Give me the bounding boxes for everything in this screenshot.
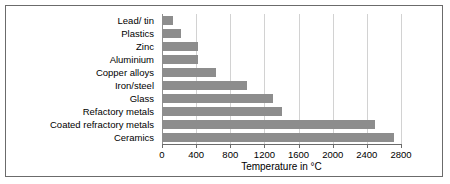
- tick-mark-1600: [299, 144, 300, 148]
- x-axis-tick-labels: 040080012001600200024002800: [162, 149, 401, 161]
- category-label: Glass: [0, 94, 154, 104]
- tick-mark-2000: [333, 144, 334, 148]
- category-label: Aluminium: [0, 55, 154, 65]
- tick-mark-800: [230, 144, 231, 148]
- category-label: Iron/steel: [0, 81, 154, 91]
- tick-mark-2800: [401, 144, 402, 148]
- bar: [162, 107, 282, 116]
- category-label: Ceramics: [0, 133, 154, 143]
- tick-label-400: 400: [188, 149, 204, 160]
- bar: [162, 68, 216, 77]
- bar: [162, 81, 247, 90]
- bar: [162, 133, 394, 142]
- bar: [162, 94, 273, 103]
- tick-mark-0: [162, 144, 163, 148]
- category-label: Refactory metals: [0, 107, 154, 117]
- tick-label-2800: 2800: [390, 149, 411, 160]
- chart-plot-wrapper: Lead/ tinPlasticsZincAluminiumCopper all…: [6, 6, 442, 176]
- tick-label-2400: 2400: [356, 149, 377, 160]
- category-label: Coated refractory metals: [0, 120, 154, 130]
- tick-label-800: 800: [222, 149, 238, 160]
- tick-mark-2400: [367, 144, 368, 148]
- tick-label-2000: 2000: [322, 149, 343, 160]
- chart-frame: Lead/ tinPlasticsZincAluminiumCopper all…: [5, 5, 443, 177]
- x-axis-title: Temperature in °C: [162, 161, 401, 172]
- category-label: Lead/ tin: [0, 16, 154, 26]
- category-label: Zinc: [0, 42, 154, 52]
- bar: [162, 16, 173, 25]
- tick-label-0: 0: [159, 149, 164, 160]
- bar: [162, 29, 181, 38]
- bar-series: [162, 14, 401, 144]
- bar: [162, 55, 198, 64]
- category-label: Copper alloys: [0, 68, 154, 78]
- plot-area: [162, 14, 401, 144]
- gridline-2800: [401, 14, 402, 144]
- tick-label-1600: 1600: [288, 149, 309, 160]
- category-axis-labels: Lead/ tinPlasticsZincAluminiumCopper all…: [6, 14, 158, 144]
- bar: [162, 120, 375, 129]
- x-axis-tick-marks: [162, 144, 401, 148]
- tick-label-1200: 1200: [254, 149, 275, 160]
- tick-mark-400: [196, 144, 197, 148]
- category-label: Plastics: [0, 29, 154, 39]
- tick-mark-1200: [264, 144, 265, 148]
- bar: [162, 42, 198, 51]
